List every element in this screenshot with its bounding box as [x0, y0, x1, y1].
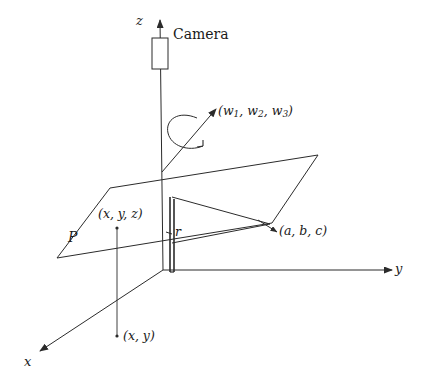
omega-axis-arrow: [162, 109, 216, 172]
omega-w3-symbol: w: [272, 103, 283, 118]
figure-container: z Camera (w1, w2, w3) (x, y, z) P r (a, …: [0, 0, 429, 385]
omega-vector-label: (w1, w2, w3): [218, 105, 293, 119]
y-axis-label: y: [395, 262, 402, 275]
omega-w2-symbol: w: [247, 103, 258, 118]
geometry-diagram: [0, 0, 429, 385]
omega-w1-symbol: w: [223, 103, 234, 118]
x-axis-label: x: [24, 355, 31, 368]
rotation-curve: [168, 115, 203, 148]
camera-body: [152, 38, 168, 69]
omega-comma-2: ,: [264, 103, 272, 118]
radius-r-label: r: [175, 226, 181, 239]
omega-close-paren: ): [288, 103, 293, 118]
camera-label: Camera: [173, 27, 229, 41]
point-abc-label: (a, b, c): [279, 225, 327, 238]
rotation-curve-arrowhead: [197, 140, 203, 147]
sight-line-upper: [172, 197, 270, 224]
z-axis-label: z: [136, 14, 143, 27]
plane-p-outline: [57, 155, 318, 258]
point-xyz-label: (x, y, z): [98, 208, 143, 221]
point-xy-label: (x, y): [123, 330, 155, 343]
sight-line-lower: [172, 224, 270, 243]
plane-p-label: P: [68, 230, 77, 244]
r-tick-mark: [166, 232, 172, 234]
